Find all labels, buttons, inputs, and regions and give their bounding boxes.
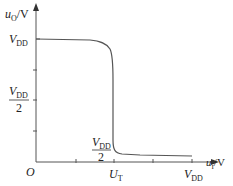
y-label-vdd: VDD [9,32,28,48]
origin-label: O [26,165,35,179]
transfer-characteristic-chart: uO/V VDD VDD 2 VDD 2 O UT VDD uI/V [0,0,233,186]
svg-text:VDD: VDD [9,84,28,100]
svg-text:VDD: VDD [92,135,111,151]
y-label-vdd-half: VDD 2 [9,84,29,115]
y-axis-arrow-icon [33,3,39,11]
svg-text:2: 2 [98,150,104,164]
x-label-ut: UT [109,167,123,183]
svg-text:2: 2 [16,101,22,115]
y-axis-label: uO/V [5,7,29,23]
annotation-vdd-half: VDD 2 [92,135,111,164]
transfer-curve [36,39,192,156]
x-label-vdd: VDD [184,167,203,183]
x-axis-label: uI/V [206,156,225,171]
